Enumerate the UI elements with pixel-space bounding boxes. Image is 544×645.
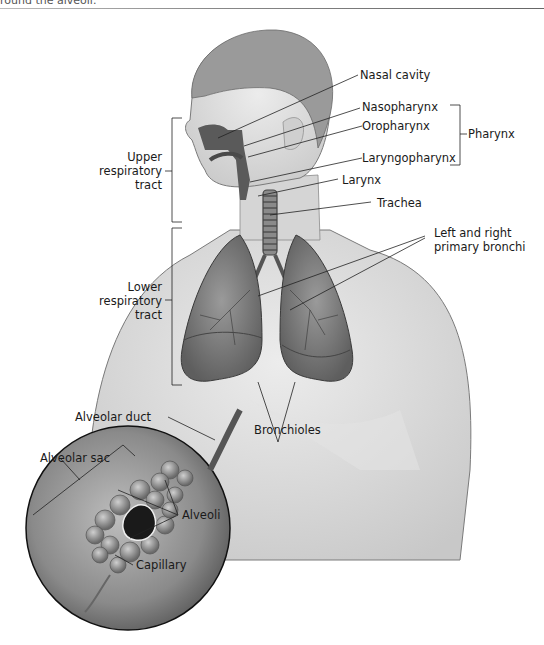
label-nasopharynx: Nasopharynx (362, 100, 438, 114)
label-lower-respiratory-tract: Lower respiratory tract (92, 280, 162, 322)
label-larynx: Larynx (342, 173, 381, 187)
label-oropharynx: Oropharynx (362, 119, 430, 133)
label-alveoli: Alveoli (182, 508, 220, 522)
label-primary-bronchi: Left and right primary bronchi (434, 226, 526, 254)
label-alveolar-sac: Alveolar sac (40, 451, 110, 465)
label-capillary: Capillary (136, 558, 187, 572)
label-nasal-cavity: Nasal cavity (360, 68, 430, 82)
label-bronchioles: Bronchioles (254, 423, 321, 437)
label-laryngopharynx: Laryngopharynx (362, 151, 456, 165)
label-upper-respiratory-tract: Upper respiratory tract (92, 150, 162, 192)
label-alveolar-duct: Alveolar duct (75, 410, 151, 424)
respiratory-illustration (0, 0, 544, 645)
label-trachea: Trachea (377, 196, 422, 210)
head (186, 30, 333, 187)
label-pharynx: Pharynx (468, 127, 515, 141)
